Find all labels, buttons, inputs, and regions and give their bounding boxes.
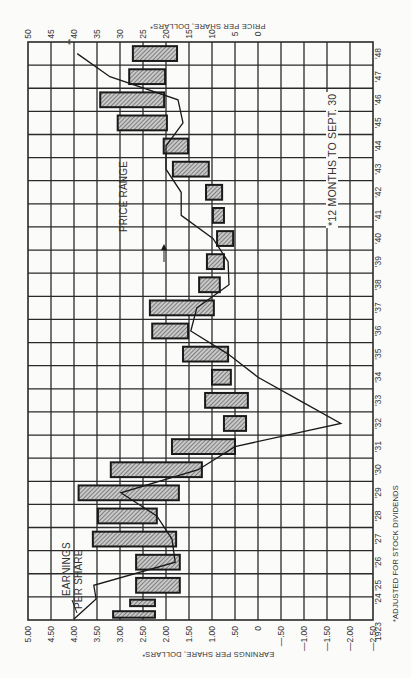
year-tick-label: '29 bbox=[373, 487, 383, 498]
price-axis-title: PRICE PER SHARE, DOLLARS* bbox=[150, 22, 265, 31]
price-tick-label: 45 bbox=[46, 29, 56, 39]
year-tick-label: '42 bbox=[373, 186, 383, 197]
year-tick-label: '45 bbox=[373, 117, 383, 128]
price-bar-42 bbox=[206, 185, 222, 200]
price-bar-47 bbox=[129, 69, 165, 84]
price-tick-label: 50 bbox=[23, 29, 33, 39]
price-bar-32 bbox=[224, 416, 246, 431]
year-tick-label: '36 bbox=[373, 325, 383, 336]
price-bar-35 bbox=[183, 347, 228, 362]
price-bar-30 bbox=[111, 462, 202, 477]
earnings-tick-label: 1.00 bbox=[207, 626, 217, 643]
earnings-tick-label: 2.50 bbox=[138, 626, 148, 643]
price-tick-label: 0 bbox=[253, 31, 263, 36]
year-tick-label: '28 bbox=[373, 510, 383, 521]
price-range-annotation: PRICE RANGE bbox=[118, 161, 129, 232]
price-tick-label: 30 bbox=[115, 29, 125, 39]
price-bar-45 bbox=[118, 116, 167, 131]
price-bar-27 bbox=[93, 532, 176, 547]
earnings-tick-label: 0 bbox=[253, 626, 263, 631]
fiscal-year-note: *12 MONTHS TO SEPT. 30 bbox=[326, 92, 338, 228]
price-tick-label: 5 bbox=[230, 31, 240, 36]
year-tick-label: '34 bbox=[373, 371, 383, 382]
earnings-tick-label: —1.50 bbox=[322, 626, 332, 651]
grid-frame bbox=[28, 42, 373, 620]
year-tick-label: '32 bbox=[373, 418, 383, 429]
year-tick-label: '38 bbox=[373, 279, 383, 290]
price-bar-25 bbox=[136, 578, 180, 593]
year-tick-label: '37 bbox=[373, 302, 383, 313]
price-bar-46 bbox=[100, 92, 164, 107]
earnings-tick-label: 4.50 bbox=[46, 626, 56, 643]
year-tick-label: '25 bbox=[373, 580, 383, 591]
year-tick-label: 1923 bbox=[373, 622, 383, 641]
earnings-tick-label: —.50 bbox=[276, 626, 286, 647]
earnings-axis-title: EARNINGS PER SHARE, DOLLARS* bbox=[142, 650, 274, 659]
earnings-tick-label: —1.00 bbox=[299, 626, 309, 651]
year-tick-label: '46 bbox=[373, 94, 383, 105]
price-tick-label: 25 bbox=[138, 29, 148, 39]
earnings-tick-label: .50 bbox=[230, 626, 240, 638]
price-bar-33 bbox=[205, 393, 248, 408]
price-tick-label: 35 bbox=[92, 29, 102, 39]
earnings-annotation-line2: PER SHARE bbox=[73, 549, 84, 609]
year-tick-label: '43 bbox=[373, 163, 383, 174]
earnings-tick-label: 3.00 bbox=[115, 626, 125, 643]
year-tick-label: '39 bbox=[373, 256, 383, 267]
price-tick-label: 40 bbox=[69, 29, 79, 39]
price-range-bars bbox=[79, 46, 248, 618]
year-tick-label: '44 bbox=[373, 140, 383, 151]
price-bar-38 bbox=[199, 277, 220, 292]
price-bar-36 bbox=[152, 324, 188, 339]
year-tick-label: '31 bbox=[373, 441, 383, 452]
price-bar-44 bbox=[164, 139, 188, 154]
price-bar-40 bbox=[217, 231, 233, 246]
footnote: *ADJUSTED FOR STOCK DIVIDENDS bbox=[391, 485, 400, 622]
chart-grid bbox=[28, 42, 373, 620]
year-tick-label: '35 bbox=[373, 348, 383, 359]
year-tick-label: '40 bbox=[373, 233, 383, 244]
earnings-tick-label: 2.00 bbox=[161, 626, 171, 643]
price-bar-41 bbox=[213, 208, 224, 223]
year-tick-label: '30 bbox=[373, 464, 383, 475]
price-bar-24 bbox=[130, 600, 155, 606]
year-tick-label: '47 bbox=[373, 71, 383, 82]
earnings-tick-label: 3.50 bbox=[92, 626, 102, 643]
earnings-annotation-line1: EARNINGS bbox=[61, 542, 72, 596]
year-tick-label: '24 bbox=[373, 593, 383, 604]
earnings-tick-label: —2.00 bbox=[345, 626, 355, 651]
year-tick-label: '26 bbox=[373, 556, 383, 567]
estimate-stars: ** bbox=[66, 38, 75, 45]
year-tick-label: '33 bbox=[373, 395, 383, 406]
year-tick-label: '41 bbox=[373, 210, 383, 221]
earnings-tick-label: 5.00 bbox=[23, 626, 33, 643]
price-bar-39 bbox=[207, 254, 224, 269]
earnings-tick-label: 1.50 bbox=[184, 626, 194, 643]
year-tick-label: '27 bbox=[373, 533, 383, 544]
price-bar-43 bbox=[173, 162, 209, 177]
earnings-tick-label: 4.00 bbox=[69, 626, 79, 643]
year-tick-label: '48 bbox=[373, 48, 383, 59]
price-bar-1923 bbox=[113, 611, 155, 617]
price-bar-34 bbox=[212, 370, 231, 385]
price-bar-48 bbox=[133, 46, 177, 61]
